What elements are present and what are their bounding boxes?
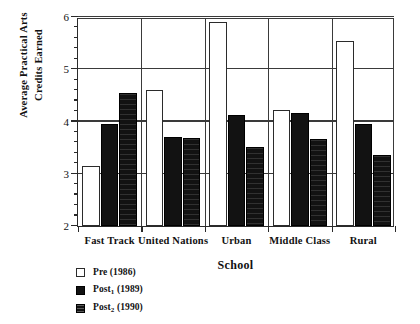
- bar: [355, 124, 373, 226]
- x-tick-1: [141, 226, 142, 232]
- bar: [164, 137, 182, 226]
- bar: [209, 22, 227, 226]
- legend-item: Pre (1986): [76, 264, 226, 280]
- y-axis-title-line1: Average Practical Arts: [16, 0, 31, 160]
- bar: [228, 115, 246, 226]
- bar: [246, 147, 264, 226]
- x-category-label-united-nations: United Nations: [138, 235, 208, 246]
- bar: [119, 93, 137, 226]
- x-tick-2: [205, 226, 206, 232]
- bar: [101, 124, 119, 226]
- y-tick-2: [71, 225, 78, 226]
- y-tick-4: [71, 120, 78, 121]
- chart-figure: Average Practical Arts Credits Earned 23…: [0, 0, 420, 324]
- y-tick-5: [71, 68, 78, 69]
- y-axis-title-line2: Credits Earned: [31, 0, 46, 160]
- y-tick-label-4: 4: [64, 116, 70, 127]
- y-tick-label-3: 3: [64, 168, 70, 179]
- x-category-label-urban: Urban: [221, 235, 251, 246]
- bar: [146, 90, 164, 226]
- chart-legend: Pre (1986)Post1 (1989)Post2 (1990): [76, 264, 226, 318]
- y-tick-3: [71, 173, 78, 174]
- y-tick-label-5: 5: [64, 64, 70, 75]
- y-tick-label-6: 6: [64, 12, 70, 23]
- x-tick-0: [78, 226, 79, 232]
- legend-item: Post2 (1990): [76, 300, 226, 316]
- bar: [291, 113, 309, 226]
- legend-label: Post2 (1990): [93, 302, 143, 314]
- y-axis-title: Average Practical Arts Credits Earned: [16, 0, 50, 160]
- legend-item: Post1 (1989): [76, 282, 226, 298]
- bar: [273, 110, 291, 226]
- bar: [183, 138, 201, 226]
- plot-area: 23456 Fast TrackUnited NationsUrbanMiddl…: [77, 18, 394, 227]
- x-tick-5: [395, 226, 396, 232]
- bar: [373, 155, 391, 226]
- legend-label-subscript: 1: [111, 288, 115, 296]
- x-category-label-fast-track: Fast Track: [85, 235, 135, 246]
- legend-label: Pre (1986): [93, 267, 136, 277]
- legend-swatch-open: [76, 268, 85, 277]
- y-tick-6: [71, 16, 78, 17]
- legend-label: Post1 (1989): [93, 284, 143, 296]
- gridline-6: [78, 16, 394, 17]
- bar-group-united-nations: [141, 18, 204, 226]
- y-tick-label-2: 2: [64, 221, 70, 232]
- bar-group-rural: [332, 18, 395, 226]
- legend-label-subscript: 2: [111, 306, 115, 314]
- bar: [82, 166, 100, 226]
- bar-group-urban: [205, 18, 268, 226]
- x-tick-3: [268, 226, 269, 232]
- legend-swatch-solid: [76, 286, 85, 295]
- bar-group-middle-class: [268, 18, 331, 226]
- bar-group-fast-track: [78, 18, 141, 226]
- bar: [336, 41, 354, 226]
- x-category-label-rural: Rural: [350, 235, 377, 246]
- x-category-label-middle-class: Middle Class: [269, 235, 330, 246]
- x-tick-4: [332, 226, 333, 232]
- legend-swatch-hatched: [76, 304, 85, 313]
- bar: [310, 139, 328, 226]
